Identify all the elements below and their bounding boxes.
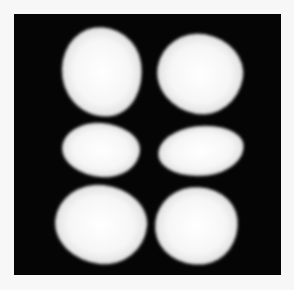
lobe-bottom-right (151, 183, 242, 269)
lobe-bottom-left (51, 180, 151, 268)
lobe-middle-right (156, 122, 247, 181)
lobe-middle-left (60, 120, 142, 179)
laser-mode-photo (14, 14, 281, 275)
lobe-top-left (56, 22, 148, 122)
image-frame (0, 0, 294, 290)
lobe-top-right (151, 27, 250, 121)
